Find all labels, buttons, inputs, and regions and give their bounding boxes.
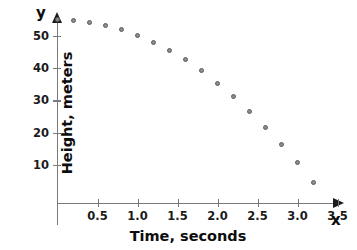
data-point xyxy=(231,94,236,99)
data-point xyxy=(167,48,172,53)
scatter-chart-figure: 0.51.01.52.02.53.03.51020304050 y x Time… xyxy=(0,0,357,250)
data-point xyxy=(119,27,124,32)
data-point xyxy=(311,180,316,185)
data-point xyxy=(279,142,284,147)
data-point xyxy=(87,20,92,25)
data-point xyxy=(199,68,204,73)
data-point xyxy=(103,23,108,28)
data-point xyxy=(263,125,268,130)
data-point xyxy=(151,40,156,45)
data-point xyxy=(55,17,60,22)
data-point xyxy=(247,109,252,114)
data-point xyxy=(215,81,220,86)
data-point xyxy=(295,160,300,165)
data-point xyxy=(183,57,188,62)
data-point xyxy=(71,18,76,23)
data-point xyxy=(135,33,140,38)
data-points-layer xyxy=(0,0,357,250)
